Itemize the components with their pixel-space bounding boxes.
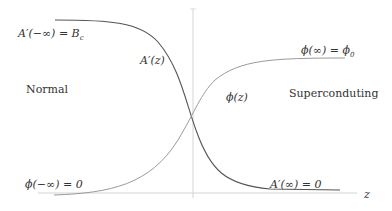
normal-region-label: Normal xyxy=(26,83,68,96)
z-axis-label: z xyxy=(363,188,370,201)
phi-plus-inf-label: ϕ(∞) = ϕ0 xyxy=(301,44,355,59)
a-plus-inf-label: A′(∞) = 0 xyxy=(269,178,321,191)
phi-curve xyxy=(54,58,345,195)
phi-curve-label: ϕ(z) xyxy=(226,91,248,104)
a-prime-curve-label: A′(z) xyxy=(139,54,165,67)
a-minus-inf-label: A′(−∞) = Bc xyxy=(17,27,84,42)
diagram-canvas: A′(−∞) = Bc A′(z) Normal ϕ(∞) = ϕ0 ϕ(z) … xyxy=(0,0,392,211)
superconducting-region-label: Superconduting xyxy=(289,87,379,100)
phi-minus-inf-label: ϕ(−∞) = 0 xyxy=(25,178,83,191)
